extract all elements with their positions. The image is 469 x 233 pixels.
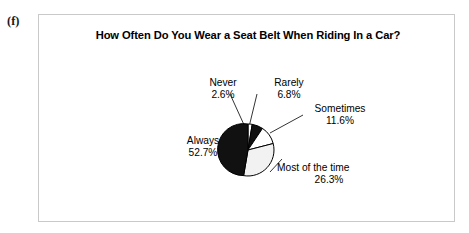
leader-line-sometimes <box>270 115 303 133</box>
pie-label-most-of-the-time: Most of the time 26.3% <box>277 162 395 187</box>
pie-label-rarely: Rarely 6.8% <box>263 77 315 102</box>
leader-line-rarely <box>249 94 257 127</box>
pie-label-always-name: Always <box>175 135 231 147</box>
pie-label-rarely-value: 6.8% <box>263 89 315 101</box>
figure-panel: (f) How Often Do You Wear a Seat Belt Wh… <box>0 0 469 233</box>
pie-label-never-name: Never <box>197 77 249 89</box>
panel-label: (f) <box>7 14 20 28</box>
pie-label-most-of-the-time-value: 26.3% <box>277 174 381 186</box>
pie-label-always: Always 52.7% <box>175 135 231 160</box>
pie-label-sometimes-value: 11.6% <box>301 115 379 127</box>
pie-label-sometimes-name: Sometimes <box>301 103 379 115</box>
pie-label-always-value: 52.7% <box>175 147 231 159</box>
pie-label-most-of-the-time-name: Most of the time <box>277 162 395 174</box>
pie-label-never: Never 2.6% <box>197 77 249 102</box>
pie-chart-graphic <box>39 15 456 223</box>
pie-label-never-value: 2.6% <box>197 89 249 101</box>
plot-area: Never 2.6% Rarely 6.8% Sometimes 11.6% M… <box>39 15 456 223</box>
pie-label-sometimes: Sometimes 11.6% <box>301 103 379 128</box>
chart-frame: How Often Do You Wear a Seat Belt When R… <box>38 14 455 222</box>
pie-label-rarely-name: Rarely <box>263 77 315 89</box>
